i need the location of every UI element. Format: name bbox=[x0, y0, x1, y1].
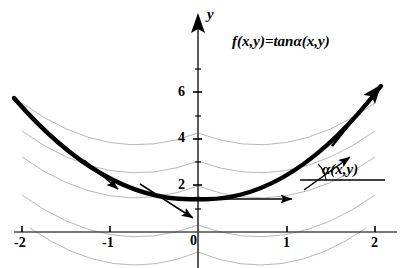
parabola-tangent-diagram: y f(x,y)=tanα(x,y) α(x,y) -2 -1 0 1 2 2 … bbox=[0, 0, 409, 268]
y-tick-label-6: 6 bbox=[178, 85, 185, 99]
x-tick-label--1: -1 bbox=[102, 236, 114, 250]
y-tick-label-2: 2 bbox=[178, 178, 185, 192]
y-axis-label: y bbox=[207, 7, 214, 22]
y-axis bbox=[191, 13, 205, 268]
x-tick-label-2: 2 bbox=[371, 236, 378, 250]
tangent-arrow-right-upper bbox=[332, 86, 380, 146]
formula-label: f(x,y)=tanα(x,y) bbox=[232, 34, 330, 49]
x-tick-label-0: 0 bbox=[190, 234, 197, 248]
y-tick-label-4: 4 bbox=[178, 131, 185, 145]
tangent-arrow-left-upper bbox=[84, 160, 118, 189]
x-tick-label--2: -2 bbox=[14, 236, 26, 250]
angle-label: α(x,y) bbox=[322, 162, 358, 177]
plot-canvas bbox=[0, 0, 409, 268]
x-axis bbox=[14, 226, 397, 232]
x-tick-label-1: 1 bbox=[283, 236, 290, 250]
